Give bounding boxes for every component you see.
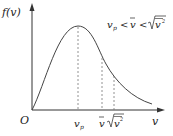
svg-text:v: v	[155, 19, 161, 30]
svg-text:2: 2	[161, 18, 165, 24]
x-axis-label: v	[152, 115, 159, 128]
distribution-curve	[32, 26, 152, 110]
svg-text:v: v	[99, 118, 105, 129]
origin-label: O	[20, 114, 29, 127]
svg-text:2: 2	[119, 116, 123, 122]
tick-label-v-p: v p	[74, 118, 84, 131]
svg-text:<: <	[139, 19, 147, 30]
svg-text:v: v	[130, 19, 136, 30]
svg-text:<: <	[120, 19, 128, 30]
y-axis-arrow-icon	[30, 3, 35, 11]
inequality-annotation: v p < v < v 2	[107, 16, 166, 32]
tick-label-v-mean: v	[99, 117, 105, 129]
svg-text:p: p	[80, 123, 84, 131]
y-axis-label: f(v)	[1, 6, 21, 19]
maxwell-distribution-diagram: f(v) O v v p v v 2 v p < v < v 2	[0, 0, 173, 136]
svg-text:p: p	[113, 24, 117, 32]
tick-label-v-rms: v 2	[107, 114, 124, 129]
x-axis-arrow-icon	[157, 108, 165, 113]
